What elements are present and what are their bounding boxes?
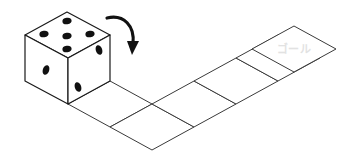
goal-tile-label: ゴール	[277, 42, 312, 55]
arrow-curve-icon	[107, 17, 133, 44]
dice-path-illustration: ゴール	[0, 0, 342, 159]
roll-direction-arrow	[107, 17, 139, 55]
arrow-head-icon	[127, 41, 139, 55]
